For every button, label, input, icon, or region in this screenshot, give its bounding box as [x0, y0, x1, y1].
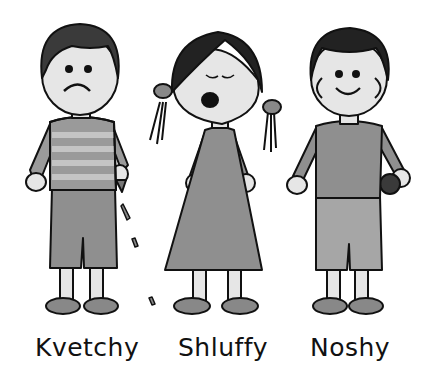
kvetchy-figure: [26, 24, 155, 314]
characters-art: [0, 0, 441, 389]
shluffy-label: Shluffy: [178, 333, 268, 362]
kvetchy-label: Kvetchy: [35, 333, 139, 362]
illustration: Kvetchy Shluffy Noshy: [0, 0, 441, 389]
noshy-label: Noshy: [310, 333, 390, 362]
noshy-figure: [287, 28, 410, 314]
shluffy-figure: [150, 32, 281, 314]
